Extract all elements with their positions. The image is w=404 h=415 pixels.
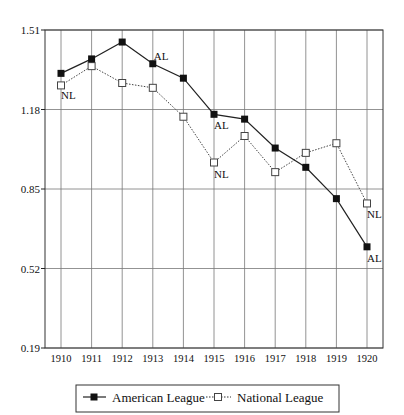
marker-filled-square-icon [58, 70, 65, 77]
marker-open-square-icon [272, 169, 279, 176]
x-tick-label: 1914 [173, 353, 195, 364]
marker-open-square-icon [88, 63, 95, 70]
y-tick-label: 0.19 [21, 342, 41, 354]
x-tick-label: 1915 [204, 353, 225, 364]
y-tick-label: 0.52 [21, 263, 40, 275]
marker-open-square-icon [364, 200, 371, 207]
y-tick-label: 0.85 [21, 183, 41, 195]
annotation-label: AL [214, 119, 229, 131]
x-tick-label: 1919 [326, 353, 347, 364]
legend-al-marker-icon [91, 394, 98, 401]
marker-open-square-icon [58, 82, 65, 89]
annotations: NLALALNLNLAL [61, 50, 382, 264]
x-tick-label: 1910 [51, 353, 72, 364]
marker-open-square-icon [241, 133, 248, 140]
y-axis-ticks: 1.511.180.850.520.19 [21, 24, 45, 354]
legend-nl-label: National League [237, 390, 323, 405]
annotation-label: AL [367, 252, 382, 264]
x-tick-label: 1912 [112, 353, 133, 364]
marker-filled-square-icon [302, 164, 309, 171]
x-tick-label: 1918 [295, 353, 316, 364]
marker-filled-square-icon [88, 55, 95, 62]
marker-open-square-icon [119, 80, 126, 87]
annotation-label: NL [367, 208, 382, 220]
marker-filled-square-icon [272, 145, 279, 152]
marker-filled-square-icon [119, 39, 126, 46]
marker-filled-square-icon [364, 243, 371, 250]
annotation-label: AL [154, 50, 169, 62]
marker-filled-square-icon [211, 111, 218, 118]
marker-filled-square-icon [180, 75, 187, 82]
legend-al-label: American League [112, 390, 205, 405]
legend: American League National League [76, 385, 339, 412]
y-tick-label: 1.51 [21, 24, 40, 36]
grid [45, 30, 383, 348]
x-axis-ticks: 1910191119121913191419151916191719181919… [51, 353, 378, 364]
x-tick-label: 1916 [234, 353, 255, 364]
marker-open-square-icon [302, 149, 309, 156]
marker-filled-square-icon [333, 195, 340, 202]
x-tick-label: 1917 [265, 353, 286, 364]
marker-open-square-icon [149, 84, 156, 91]
x-tick-label: 1920 [357, 353, 378, 364]
y-tick-label: 1.18 [21, 104, 41, 116]
annotation-label: NL [61, 89, 76, 101]
marker-filled-square-icon [241, 116, 248, 123]
x-tick-label: 1913 [142, 353, 163, 364]
annotation-label: NL [214, 168, 229, 180]
marker-open-square-icon [333, 140, 340, 147]
legend-nl-marker-icon [215, 394, 222, 401]
marker-open-square-icon [180, 113, 187, 120]
x-tick-label: 1911 [81, 353, 102, 364]
marker-open-square-icon [211, 159, 218, 166]
line-chart: 1.511.180.850.520.19 1910191119121913191… [0, 0, 404, 415]
